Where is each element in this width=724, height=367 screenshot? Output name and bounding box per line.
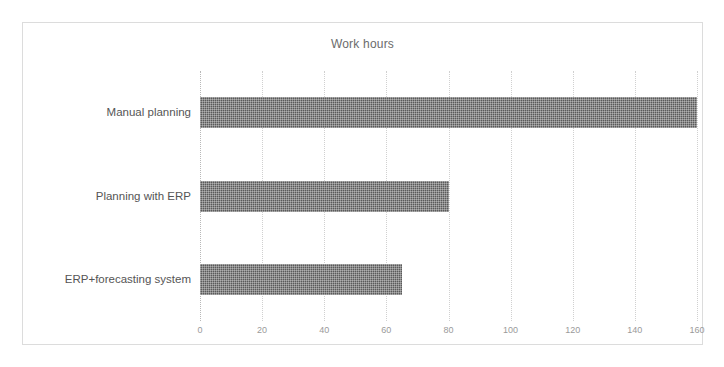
chart-container: Work hours Manual planningPlanning with … <box>22 22 703 345</box>
tick-label-0: 0 <box>197 325 202 335</box>
tick-label-120: 120 <box>565 325 580 335</box>
tick-label-80: 80 <box>443 325 453 335</box>
bar-2[interactable] <box>200 181 449 212</box>
category-label-3: ERP+forecasting system <box>11 273 191 285</box>
tick-label-140: 140 <box>627 325 642 335</box>
bar-fill <box>200 181 449 212</box>
category-label-2: Planning with ERP <box>11 190 191 202</box>
bar-fill <box>200 264 402 295</box>
tick-label-100: 100 <box>503 325 518 335</box>
plot-area <box>200 71 697 321</box>
tick-label-40: 40 <box>319 325 329 335</box>
tick-label-160: 160 <box>689 325 704 335</box>
bar-fill <box>200 97 697 128</box>
tick-label-20: 20 <box>257 325 267 335</box>
value-axis: 020406080100120140160 <box>200 325 697 343</box>
chart-title: Work hours <box>23 37 702 51</box>
bar-1[interactable] <box>200 97 697 128</box>
bar-3[interactable] <box>200 264 402 295</box>
tick-label-60: 60 <box>381 325 391 335</box>
gridline-160 <box>697 71 698 321</box>
category-axis: Manual planningPlanning with ERPERP+fore… <box>23 71 191 321</box>
category-label-1: Manual planning <box>11 106 191 118</box>
